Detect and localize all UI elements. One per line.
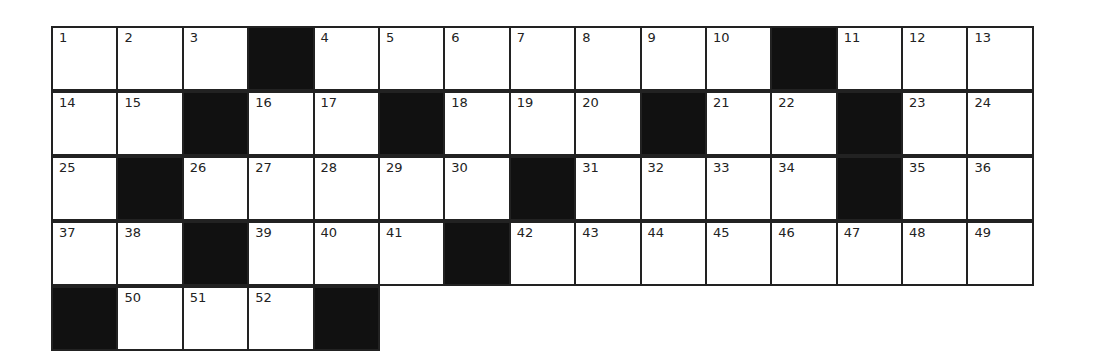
black-square [313, 286, 380, 351]
answer-cell[interactable]: 9 [640, 26, 707, 91]
black-square [51, 286, 118, 351]
clue-number: 13 [974, 30, 991, 46]
answer-cell[interactable]: 3 [182, 26, 249, 91]
answer-cell[interactable]: 44 [640, 221, 707, 286]
answer-cell[interactable]: 13 [966, 26, 1033, 91]
clue-number: 35 [909, 160, 926, 176]
answer-cell[interactable]: 8 [574, 26, 641, 91]
clue-number: 3 [190, 30, 198, 46]
answer-cell[interactable]: 45 [705, 221, 772, 286]
answer-cell[interactable]: 21 [705, 91, 772, 156]
answer-cell[interactable]: 12 [901, 26, 968, 91]
answer-cell[interactable]: 37 [51, 221, 118, 286]
grid-row: 37383940414243444546474849 [51, 221, 1032, 286]
answer-cell[interactable]: 33 [705, 156, 772, 221]
answer-cell[interactable]: 11 [836, 26, 903, 91]
clue-number: 18 [451, 95, 468, 111]
answer-cell[interactable]: 47 [836, 221, 903, 286]
clue-number: 38 [124, 225, 141, 241]
black-square [836, 91, 903, 156]
answer-cell[interactable]: 15 [116, 91, 183, 156]
clue-number: 52 [255, 290, 272, 306]
clue-number: 9 [648, 30, 656, 46]
black-square [770, 26, 837, 91]
answer-cell[interactable]: 41 [378, 221, 445, 286]
black-square [443, 221, 510, 286]
answer-cell[interactable]: 17 [313, 91, 380, 156]
answer-cell[interactable]: 22 [770, 91, 837, 156]
answer-cell[interactable]: 49 [966, 221, 1033, 286]
clue-number: 39 [255, 225, 272, 241]
clue-number: 44 [648, 225, 665, 241]
answer-cell[interactable]: 46 [770, 221, 837, 286]
clue-number: 24 [974, 95, 991, 111]
answer-cell[interactable]: 6 [443, 26, 510, 91]
answer-cell[interactable]: 39 [247, 221, 314, 286]
answer-cell[interactable]: 1 [51, 26, 118, 91]
answer-cell[interactable]: 40 [313, 221, 380, 286]
answer-cell[interactable]: 30 [443, 156, 510, 221]
clue-number: 20 [582, 95, 599, 111]
answer-cell[interactable]: 16 [247, 91, 314, 156]
answer-cell[interactable]: 27 [247, 156, 314, 221]
black-square [247, 26, 314, 91]
answer-cell[interactable]: 36 [966, 156, 1033, 221]
answer-cell[interactable]: 52 [247, 286, 314, 351]
crossword-grid: 1234567891011121314151617181920212223242… [51, 26, 1032, 351]
answer-cell[interactable]: 31 [574, 156, 641, 221]
clue-number: 6 [451, 30, 459, 46]
answer-cell[interactable]: 19 [509, 91, 576, 156]
clue-number: 50 [124, 290, 141, 306]
clue-number: 8 [582, 30, 590, 46]
answer-cell[interactable]: 24 [966, 91, 1033, 156]
answer-cell[interactable]: 23 [901, 91, 968, 156]
answer-cell[interactable]: 4 [313, 26, 380, 91]
clue-number: 4 [321, 30, 329, 46]
answer-cell[interactable]: 43 [574, 221, 641, 286]
answer-cell[interactable]: 42 [509, 221, 576, 286]
clue-number: 12 [909, 30, 926, 46]
answer-cell[interactable]: 20 [574, 91, 641, 156]
answer-cell[interactable]: 32 [640, 156, 707, 221]
answer-cell[interactable]: 51 [182, 286, 249, 351]
clue-number: 31 [582, 160, 599, 176]
grid-row: 12345678910111213 [51, 26, 1032, 91]
clue-number: 32 [648, 160, 665, 176]
answer-cell[interactable]: 25 [51, 156, 118, 221]
answer-cell[interactable]: 35 [901, 156, 968, 221]
clue-number: 23 [909, 95, 926, 111]
answer-cell[interactable]: 2 [116, 26, 183, 91]
answer-cell[interactable]: 5 [378, 26, 445, 91]
clue-number: 43 [582, 225, 599, 241]
answer-cell[interactable]: 34 [770, 156, 837, 221]
clue-number: 48 [909, 225, 926, 241]
answer-cell[interactable]: 14 [51, 91, 118, 156]
grid-row: 1415161718192021222324 [51, 91, 1032, 156]
clue-number: 25 [59, 160, 76, 176]
clue-number: 26 [190, 160, 207, 176]
clue-number: 5 [386, 30, 394, 46]
answer-cell[interactable]: 50 [116, 286, 183, 351]
answer-cell[interactable]: 28 [313, 156, 380, 221]
clue-number: 10 [713, 30, 730, 46]
answer-cell[interactable]: 38 [116, 221, 183, 286]
answer-cell[interactable]: 7 [509, 26, 576, 91]
clue-number: 7 [517, 30, 525, 46]
answer-cell[interactable]: 26 [182, 156, 249, 221]
black-square [836, 156, 903, 221]
clue-number: 2 [124, 30, 132, 46]
grid-row: 252627282930313233343536 [51, 156, 1032, 221]
clue-number: 42 [517, 225, 534, 241]
clue-number: 33 [713, 160, 730, 176]
answer-cell[interactable]: 18 [443, 91, 510, 156]
clue-number: 19 [517, 95, 534, 111]
clue-number: 1 [59, 30, 67, 46]
black-square [116, 156, 183, 221]
clue-number: 29 [386, 160, 403, 176]
answer-cell[interactable]: 29 [378, 156, 445, 221]
answer-cell[interactable]: 48 [901, 221, 968, 286]
clue-number: 28 [321, 160, 338, 176]
clue-number: 27 [255, 160, 272, 176]
clue-number: 22 [778, 95, 795, 111]
answer-cell[interactable]: 10 [705, 26, 772, 91]
